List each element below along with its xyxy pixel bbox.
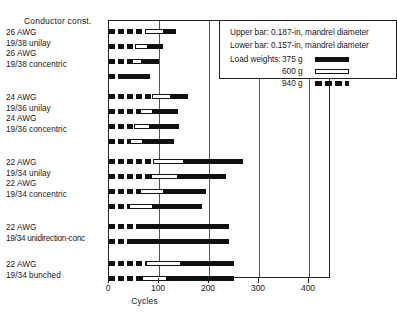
category-label: 19/34 unidirection-conc [6, 234, 106, 245]
chart-figure: Conductor const. 26 AWG19/38 unilay26 AW… [0, 0, 397, 320]
segment-375g [164, 29, 176, 34]
segment-940g [109, 239, 131, 244]
category-label: 22 AWG [6, 158, 106, 169]
category-label: 19/34 concentric [6, 190, 106, 201]
segment-375g [153, 204, 202, 209]
segment-375g [184, 159, 243, 164]
category-group-3: 22 AWG19/34 unilay22 AWG19/34 concentric [6, 158, 106, 200]
bar-group2-row1 [109, 94, 188, 99]
conductor-const-header: Conductor const. [24, 16, 91, 26]
segment-600g [140, 109, 153, 114]
segment-600g [152, 94, 171, 99]
segment-940g [109, 29, 145, 34]
category-label: 19/34 bunched [6, 271, 106, 282]
bar-group1-row1 [109, 29, 176, 34]
segment-600g [151, 174, 178, 179]
legend-key-940g [315, 81, 349, 86]
segment-375g [150, 124, 179, 129]
x-tick-label-200: 200 [201, 283, 215, 293]
segment-940g [109, 74, 119, 79]
legend-note-lower: Lower bar: 0.157-in, mandrel diameter [230, 40, 369, 50]
bar-group2-row4 [109, 139, 174, 144]
category-label: 22 AWG [6, 260, 106, 271]
segment-375g [131, 239, 229, 244]
segment-940g [109, 139, 130, 144]
gridline-100 [159, 21, 160, 277]
x-axis-label: Cycles [0, 296, 397, 306]
segment-375g [171, 94, 188, 99]
segment-375g [148, 44, 163, 49]
legend-load-title: Load weights: [230, 54, 281, 64]
x-axis-label-text: Cycles [131, 296, 158, 306]
segment-600g [130, 139, 143, 144]
segment-940g [109, 174, 151, 179]
legend-label-600g: 600 g [282, 66, 303, 76]
bar-group4-row2 [109, 239, 229, 244]
segment-375g [164, 189, 206, 194]
segment-600g [134, 124, 150, 129]
segment-940g [109, 59, 132, 64]
segment-375g [178, 174, 226, 179]
category-label: 19/38 unilay [6, 39, 106, 50]
category-group-1: 26 AWG19/38 unilay26 AWG19/38 concentric [6, 28, 106, 70]
category-label: 26 AWG [6, 28, 106, 39]
category-label: 19/36 unilay [6, 104, 106, 115]
segment-940g [109, 204, 129, 209]
category-label: 24 AWG [6, 93, 106, 104]
x-tick-label-300: 300 [251, 283, 265, 293]
category-group-4: 22 AWG19/34 unidirection-conc [6, 223, 106, 244]
segment-375g [153, 109, 178, 114]
segment-940g [109, 109, 140, 114]
segment-940g [109, 159, 153, 164]
category-label: 19/36 concentric [6, 125, 106, 136]
bar-group4-row1 [109, 224, 229, 229]
bar-group3-row1 [109, 159, 243, 164]
gridline-200 [209, 21, 210, 277]
segment-600g [146, 261, 181, 266]
segment-600g [135, 44, 148, 49]
segment-600g [132, 59, 142, 64]
segment-600g [153, 159, 184, 164]
bar-group2-row2 [109, 109, 178, 114]
segment-375g [140, 224, 229, 229]
segment-940g [109, 189, 140, 194]
legend-note-upper: Upper bar: 0.187-in, mandrel diameter [230, 27, 369, 37]
segment-600g [145, 29, 164, 34]
segment-940g [109, 94, 152, 99]
bar-group3-row3 [109, 189, 206, 194]
legend-panel: Upper bar: 0.187-in, mandrel diameter Lo… [219, 20, 397, 79]
legend-label-375g: 375 g [282, 54, 303, 64]
segment-600g [140, 189, 164, 194]
x-tick-label-100: 100 [151, 283, 165, 293]
x-tick-label-0: 0 [106, 283, 111, 293]
category-label: 22 AWG [6, 223, 106, 234]
bar-group1-row3 [109, 59, 159, 64]
segment-940g [109, 44, 135, 49]
segment-600g [129, 204, 153, 209]
bar-group1-row4 [109, 74, 150, 79]
category-group-2: 24 AWG19/36 unilay24 AWG19/36 concentric [6, 93, 106, 135]
category-label: 19/38 concentric [6, 60, 106, 71]
bar-group2-row3 [109, 124, 179, 129]
segment-940g [109, 224, 140, 229]
segment-375g [119, 74, 150, 79]
category-label: 19/34 unilay [6, 169, 106, 180]
segment-375g [181, 261, 234, 266]
segment-940g [109, 261, 146, 266]
category-label: 26 AWG [6, 49, 106, 60]
x-tick-label-400: 400 [301, 283, 315, 293]
segment-375g [142, 59, 159, 64]
category-label: 24 AWG [6, 114, 106, 125]
legend-label-940g: 940 g [282, 78, 303, 88]
bar-group3-row4 [109, 204, 202, 209]
category-group-5: 22 AWG19/34 bunched [6, 260, 106, 281]
segment-940g [109, 124, 134, 129]
category-label: 22 AWG [6, 179, 106, 190]
bar-group1-row2 [109, 44, 163, 49]
legend-key-600g [315, 69, 349, 74]
legend-key-375g [315, 57, 349, 62]
bar-group5-row1 [109, 261, 234, 266]
x-axis: 0100200300400 [108, 278, 330, 284]
